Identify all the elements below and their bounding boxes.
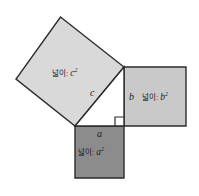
diagram-canvas: 넓이: c2 c b 넓이: b2 a 넓이: a2 <box>0 0 199 196</box>
pythagorean-diagram: 넓이: c2 c b 넓이: b2 a 넓이: a2 <box>0 0 199 196</box>
c-side-label: c <box>90 87 95 98</box>
b-area-exponent: 2 <box>165 91 168 97</box>
b-square-area-label: 넓이: b2 <box>142 91 168 102</box>
a-area-prefix: 넓이: <box>78 147 96 157</box>
a-area-exponent: 2 <box>101 146 104 152</box>
b-side-label: b <box>129 91 134 102</box>
c-square-area-label: 넓이: c2 <box>52 67 77 78</box>
c-area-exponent: 2 <box>74 67 77 73</box>
b-area-prefix: 넓이: <box>142 92 160 102</box>
a-side-label: a <box>97 128 102 139</box>
a-square-area-label: 넓이: a2 <box>78 146 104 157</box>
c-area-prefix: 넓이: <box>52 68 70 78</box>
